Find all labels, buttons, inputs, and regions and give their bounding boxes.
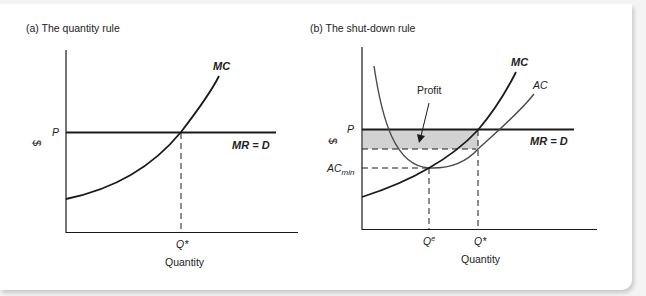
figure-svg: (a) The quantity rule $ P MC MR = D Q* Q… <box>0 0 646 296</box>
panel-a-dollar-label: $ <box>31 140 43 146</box>
panel-a-mr-label: MR = D <box>232 139 270 151</box>
panel-b-x-label: Quantity <box>461 253 501 265</box>
panel-a-title: (a) The quantity rule <box>26 22 120 34</box>
panel-b-ac-label: AC <box>532 79 548 91</box>
panel-a-qstar-label: Q* <box>176 238 189 250</box>
panel-a: (a) The quantity rule $ P MC MR = D Q* Q… <box>26 22 298 268</box>
panel-a-p-label: P <box>52 126 59 138</box>
panel-b-qstar-label: Q* <box>474 235 487 247</box>
panel-b-ac-curve <box>374 66 534 168</box>
panel-a-x-label: Quantity <box>165 256 205 268</box>
panel-b-p-label: P <box>347 123 354 135</box>
profit-label: Profit <box>417 84 442 96</box>
panel-b-title: (b) The shut-down rule <box>310 22 416 34</box>
panel-b-mr-label: MR = D <box>530 135 568 147</box>
panel-b-acmin-label: ACmin <box>326 162 355 177</box>
panel-a-mc-curve <box>66 76 219 199</box>
panel-b-dollar-label: $ <box>327 138 339 144</box>
panel-a-mc-label: MC <box>213 60 231 72</box>
panel-b-qe-label: Qe <box>423 235 435 247</box>
panel-b: (b) The shut-down rule $ P ACmin MC AC P… <box>310 22 597 265</box>
panel-b-mc-label: MC <box>511 56 529 68</box>
